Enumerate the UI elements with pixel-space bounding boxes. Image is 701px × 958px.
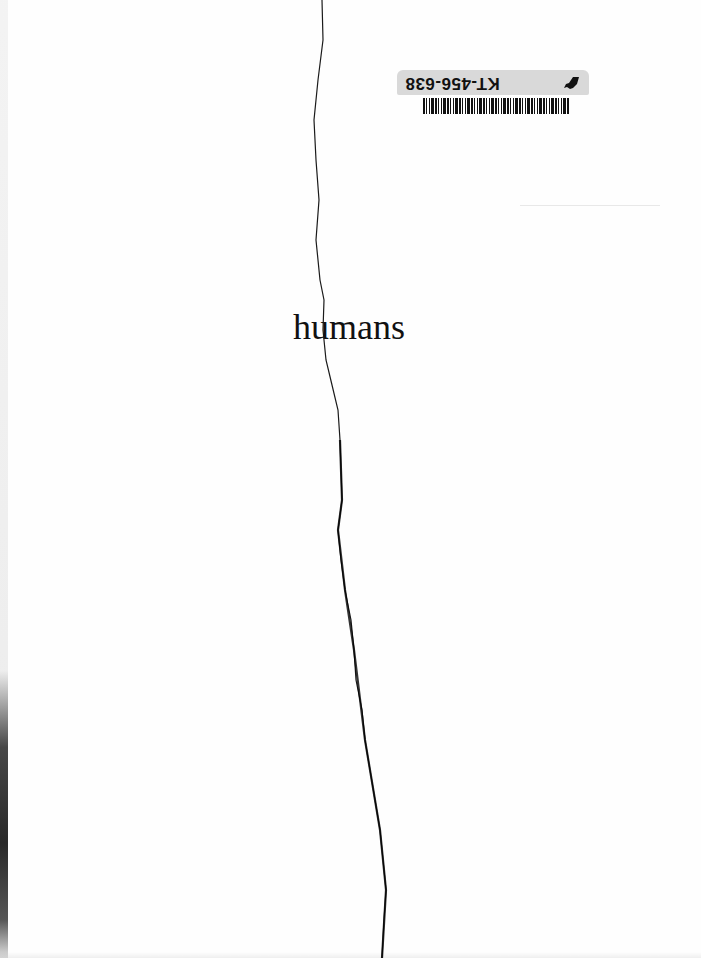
paper-crack [0,0,701,958]
book-page: KT-456-638 humans [0,0,701,958]
sticker-label: KT-456-638 [397,70,589,95]
faint-mark [520,205,660,206]
library-sticker: KT-456-638 [397,70,589,118]
sticker-code: KT-456-638 [405,73,500,93]
barcode [423,98,569,114]
page-bottom-edge [0,952,701,958]
horse-icon [563,76,581,90]
title-word: humans [293,309,405,345]
page-left-edge [0,0,8,958]
